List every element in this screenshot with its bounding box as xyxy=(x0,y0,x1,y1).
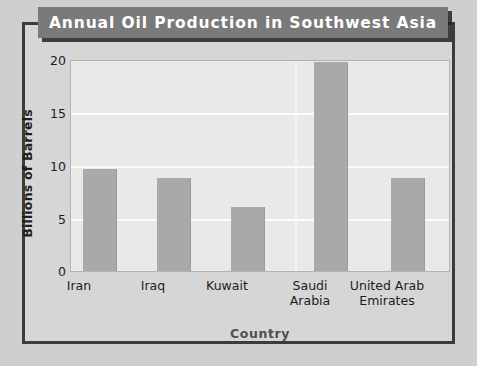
x-tick-line-2: Arabia xyxy=(280,293,340,308)
y-tick-label-0: 0 xyxy=(24,264,66,279)
bar-iraq xyxy=(157,178,191,271)
x-tick-label-iran: Iran xyxy=(49,278,109,293)
chart-plot-wrapper: 20 15 10 5 0 Billions of Barrels Iran Ir… xyxy=(0,0,477,366)
x-tick-line-1: Iraq xyxy=(123,278,183,293)
gridline-vertical xyxy=(295,61,297,271)
gridline-10 xyxy=(71,166,449,168)
chart-title-banner: Annual Oil Production in Southwest Asia xyxy=(38,7,448,38)
y-tick-label-20: 20 xyxy=(24,53,66,68)
bar-iran xyxy=(83,169,117,271)
page-title: Annual Oil Production in Southwest Asia xyxy=(49,14,437,32)
x-axis-title: Country xyxy=(70,326,450,341)
x-tick-line-1: Kuwait xyxy=(197,278,257,293)
x-tick-line-1: Saudi xyxy=(280,278,340,293)
y-axis: 20 15 10 5 0 xyxy=(10,0,66,366)
x-tick-line-2: Emirates xyxy=(347,293,427,308)
x-tick-label-kuwait: Kuwait xyxy=(197,278,257,293)
bar-saudi-arabia xyxy=(314,62,348,271)
plot-area xyxy=(70,60,450,272)
x-tick-label-saudi-arabia: Saudi Arabia xyxy=(280,278,340,308)
bar-kuwait xyxy=(231,207,265,271)
y-axis-title: Billions of Barrels xyxy=(20,84,35,264)
x-tick-line-1: Iran xyxy=(49,278,109,293)
gridline-15 xyxy=(71,113,449,115)
x-tick-line-1: United Arab xyxy=(347,278,427,293)
bar-uae xyxy=(391,178,425,271)
x-tick-label-iraq: Iraq xyxy=(123,278,183,293)
x-tick-label-uae: United Arab Emirates xyxy=(347,278,427,308)
